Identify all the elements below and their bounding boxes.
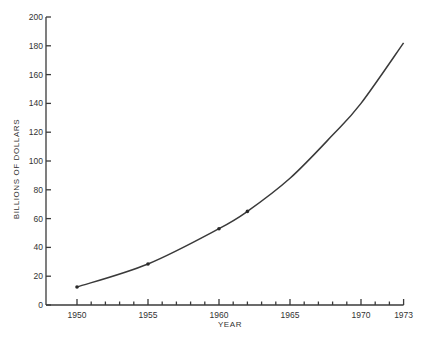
x-tick-label: 1973 bbox=[394, 310, 413, 320]
y-tick-label: 100 bbox=[29, 156, 43, 166]
data-point-marker bbox=[246, 210, 250, 214]
y-tick-label: 120 bbox=[29, 127, 43, 137]
data-series bbox=[75, 43, 403, 289]
data-point-marker bbox=[146, 262, 150, 266]
x-tick-label: 1955 bbox=[139, 310, 158, 320]
y-tick-label: 40 bbox=[34, 242, 44, 252]
line-chart: 020406080100120140160180200 195019551960… bbox=[0, 0, 427, 341]
x-axis-title: YEAR bbox=[218, 320, 242, 329]
x-tick-label: 1950 bbox=[68, 310, 87, 320]
y-tick-label: 140 bbox=[29, 98, 43, 108]
y-tick-label: 180 bbox=[29, 41, 43, 51]
y-tick-label: 160 bbox=[29, 70, 43, 80]
y-tick-label: 80 bbox=[34, 185, 44, 195]
data-point-marker bbox=[217, 227, 221, 231]
y-tick-label: 60 bbox=[34, 214, 44, 224]
series-line bbox=[77, 43, 404, 287]
x-tick-label: 1970 bbox=[352, 310, 371, 320]
y-tick-label: 20 bbox=[34, 271, 44, 281]
data-point-marker bbox=[75, 285, 79, 289]
y-axis-title: BILLIONS OF DOLLARS bbox=[12, 119, 21, 219]
x-tick-label: 1965 bbox=[281, 310, 300, 320]
x-axis: 195019551960196519701973 bbox=[46, 299, 413, 320]
x-tick-label: 1960 bbox=[210, 310, 229, 320]
y-tick-label: 0 bbox=[38, 300, 43, 310]
y-tick-label: 200 bbox=[29, 12, 43, 22]
y-axis: 020406080100120140160180200 bbox=[29, 12, 51, 310]
